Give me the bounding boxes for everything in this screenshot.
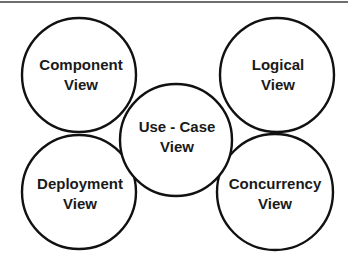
component-view-label: Component View — [21, 55, 141, 95]
deployment-view-line2: View — [20, 194, 140, 214]
component-view-line1: Component — [21, 55, 141, 75]
component-view-line2: View — [21, 75, 141, 95]
logical-view-line2: View — [218, 75, 338, 95]
concurrency-view-label: Concurrency View — [215, 174, 335, 214]
concurrency-view-line2: View — [215, 194, 335, 214]
deployment-view-label: Deployment View — [20, 174, 140, 214]
use-case-view-label: Use - Case View — [117, 117, 237, 157]
use-case-view-line1: Use - Case — [117, 117, 237, 137]
deployment-view-line1: Deployment — [20, 174, 140, 194]
use-case-view-line2: View — [117, 137, 237, 157]
logical-view-line1: Logical — [218, 55, 338, 75]
concurrency-view-line1: Concurrency — [215, 174, 335, 194]
logical-view-label: Logical View — [218, 55, 338, 95]
